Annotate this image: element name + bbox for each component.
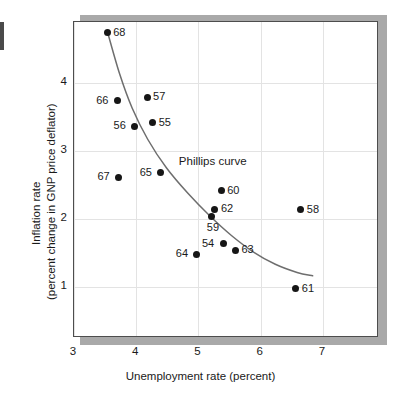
data-point-label: 59 [207, 222, 219, 233]
data-point [114, 97, 121, 104]
data-point-label: 57 [153, 91, 165, 102]
phillips-curve-figure: 686657565567656062595854636461 Phillips … [0, 0, 401, 397]
data-point-label: 64 [176, 248, 188, 259]
page-edge-mark [0, 22, 4, 50]
data-point-label: 62 [221, 203, 233, 214]
data-point-label: 55 [159, 117, 171, 128]
y-tick-label: 4 [51, 75, 67, 87]
x-tick-label: 4 [125, 345, 145, 357]
data-point-label: 60 [227, 185, 239, 196]
data-point-label: 65 [140, 167, 152, 178]
data-point [131, 123, 138, 130]
x-tick-label: 7 [312, 345, 332, 357]
gridline-vertical [261, 22, 262, 336]
data-point-label: 67 [97, 171, 109, 182]
data-point [208, 213, 215, 220]
gridline-vertical [136, 22, 137, 336]
data-point [232, 247, 239, 254]
x-tick-label: 3 [63, 345, 83, 357]
y-axis-title-line1: Inflation rate [30, 182, 42, 245]
data-point [193, 251, 200, 258]
data-point-label: 61 [302, 283, 314, 294]
data-point-label: 56 [114, 120, 126, 131]
data-point-label: 68 [113, 27, 125, 38]
gridline-horizontal [74, 287, 377, 288]
data-point [144, 94, 151, 101]
x-tick-label: 5 [187, 345, 207, 357]
gridline-horizontal [74, 83, 377, 84]
data-point [115, 174, 122, 181]
data-point-label: 54 [202, 238, 214, 249]
phillips-curve-annotation: Phillips curve [179, 155, 247, 167]
data-point-label: 63 [241, 244, 253, 255]
gridline-vertical [74, 22, 75, 336]
gridline-vertical [198, 22, 199, 336]
x-tick-label: 6 [250, 345, 270, 357]
gridline-vertical [323, 22, 324, 336]
gridline-horizontal [74, 151, 377, 152]
data-point-label: 66 [96, 95, 108, 106]
gridline-horizontal [74, 219, 377, 220]
y-axis-title-line2: (percent change in GNP price deflator) [45, 103, 57, 300]
data-point-label: 58 [307, 204, 319, 215]
data-point [104, 29, 111, 36]
data-point [220, 240, 227, 247]
x-axis-title: Unemployment rate (percent) [0, 370, 401, 382]
